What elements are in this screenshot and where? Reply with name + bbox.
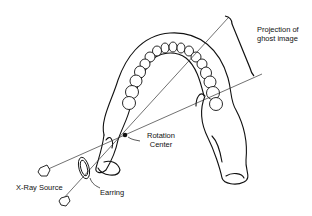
projection-bracket <box>225 16 254 76</box>
rotation-center-label: Rotation Center <box>141 131 181 149</box>
beam-lines <box>46 18 262 200</box>
rotation-center-point <box>123 133 128 138</box>
x-ray-source-1 <box>38 165 50 176</box>
xray-source-label: X-Ray Source <box>16 183 63 192</box>
x-ray-source-2 <box>59 196 70 206</box>
earring-label: Earring <box>100 188 124 197</box>
projection-label: Projection of ghost image <box>257 25 307 43</box>
teeth-arch <box>123 42 223 111</box>
